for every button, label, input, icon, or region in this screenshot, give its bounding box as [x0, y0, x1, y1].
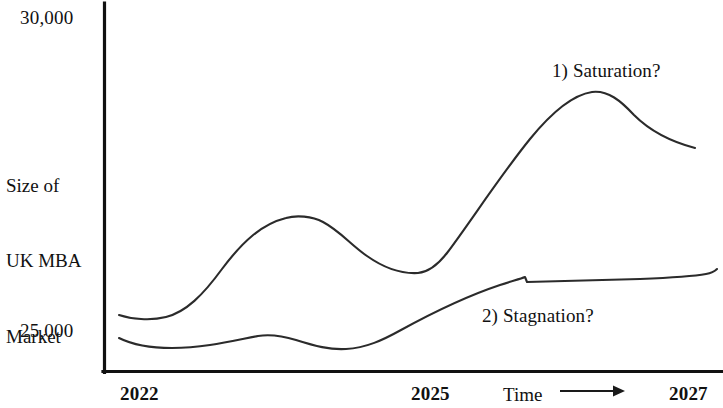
x-axis-tick-2027: 2027: [669, 381, 708, 406]
y-axis-tick-30000: 30,000: [20, 5, 73, 30]
x-axis-tick-2025: 2025: [411, 381, 450, 406]
chart-figure: 30,000 25,000 Size of UK MBA Market 2022…: [0, 0, 723, 408]
y-axis-title-line-2: UK MBA: [6, 248, 81, 273]
y-axis-title-line-3: Market: [6, 324, 81, 349]
x-axis-tick-2022: 2022: [120, 381, 159, 406]
annotation-saturation: 1) Saturation?: [552, 58, 661, 83]
line-series-stagnation: [119, 269, 717, 349]
line-series-saturation: [119, 92, 695, 319]
time-arrow-icon: [560, 386, 625, 397]
annotation-stagnation: 2) Stagnation?: [482, 303, 594, 328]
y-axis-title: Size of UK MBA Market: [6, 123, 81, 399]
y-axis-title-line-1: Size of: [6, 173, 81, 198]
x-axis-title: Time: [503, 382, 542, 407]
